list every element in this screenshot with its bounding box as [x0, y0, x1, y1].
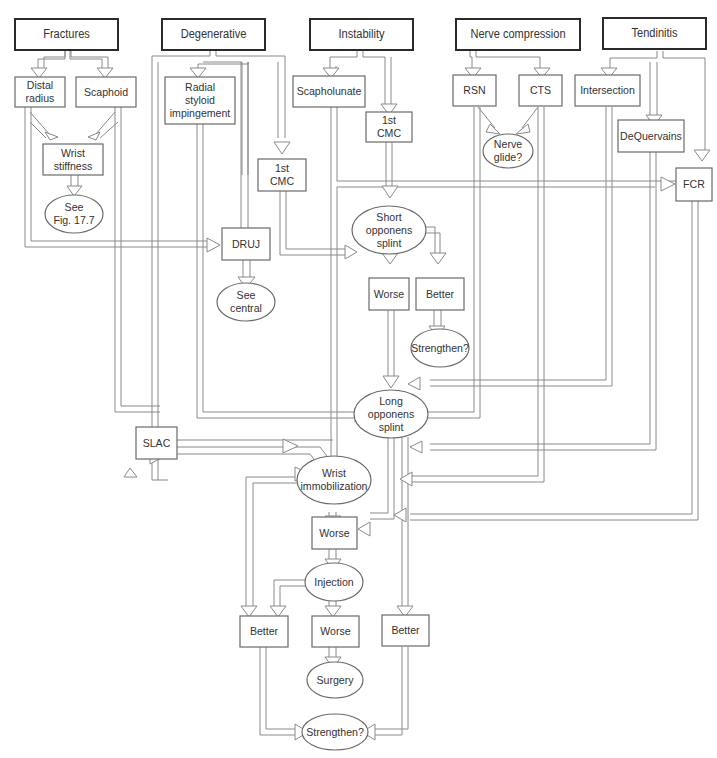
node-better-left[interactable]: Better: [242, 616, 286, 647]
node-radial-styloid-impingement[interactable]: Radial styloid impingement: [168, 77, 232, 124]
node-injection[interactable]: Injection: [307, 563, 360, 601]
node-fcr[interactable]: FCR: [677, 168, 710, 201]
node-surgery[interactable]: Surgery: [309, 662, 361, 698]
node-see-central[interactable]: See central: [219, 283, 272, 321]
node-long-opponens-splint[interactable]: Long opponens splint: [357, 390, 425, 438]
category-nerve-compression[interactable]: Nerve compression: [461, 19, 575, 50]
node-slac[interactable]: SLAC: [138, 427, 176, 459]
node-better-short-splint[interactable]: Better: [418, 278, 462, 310]
node-rsn[interactable]: RSN: [455, 75, 495, 106]
node-intersection[interactable]: Intersection: [578, 75, 638, 106]
category-fractures[interactable]: Fractures: [19, 19, 114, 50]
node-nerve-glide[interactable]: Nerve glide?: [485, 134, 531, 168]
node-distal-radius[interactable]: Distal radius: [17, 77, 63, 107]
node-druj[interactable]: DRUJ: [224, 228, 268, 260]
node-scaphoid[interactable]: Scaphoid: [78, 77, 133, 107]
node-wrist-immobilization[interactable]: Wrist immobilization: [300, 456, 368, 504]
node-strengthen-bottom[interactable]: Strengthen?: [305, 714, 366, 750]
category-tendinitis[interactable]: Tendinitis: [607, 18, 702, 49]
node-worse-immobilization[interactable]: Worse: [314, 517, 355, 549]
node-1st-cmc-degenerative[interactable]: 1st CMC: [260, 159, 304, 191]
node-wrist-stiffness[interactable]: Wrist stiffness: [45, 144, 100, 175]
category-degenerative[interactable]: Degenerative: [166, 19, 261, 50]
node-dequervains[interactable]: DeQuervains: [621, 120, 682, 152]
flowchart-canvas: [0, 0, 717, 758]
node-worse-injection[interactable]: Worse: [314, 616, 357, 647]
node-scapholunate[interactable]: Scapholunate: [296, 76, 362, 107]
node-cts[interactable]: CTS: [521, 75, 561, 106]
node-better-right[interactable]: Better: [384, 615, 427, 646]
nodes: [15, 18, 712, 750]
node-see-fig-17-7[interactable]: See Fig. 17.7: [47, 195, 100, 233]
node-worse-short-splint[interactable]: Worse: [371, 278, 408, 310]
node-1st-cmc-instability[interactable]: 1st CMC: [368, 112, 410, 142]
node-strengthen-upper[interactable]: Strengthen?: [413, 329, 466, 367]
category-instability[interactable]: Instability: [314, 19, 409, 50]
node-short-opponens-splint[interactable]: Short opponens splint: [355, 206, 423, 254]
